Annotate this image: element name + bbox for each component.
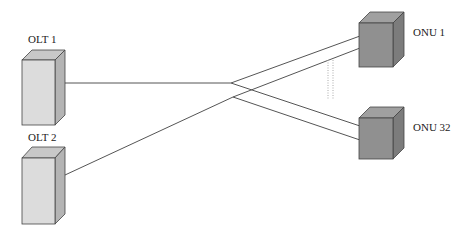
fiber-links <box>65 36 360 175</box>
olt1-label: OLT 1 <box>28 33 56 45</box>
ellipsis-dots <box>328 60 333 100</box>
diagram-canvas <box>0 0 471 239</box>
olt1-to-onu32 <box>231 83 360 126</box>
olt1-to-onu1 <box>231 36 360 83</box>
olt2-trunk <box>65 97 233 175</box>
onu1-label: ONU 1 <box>413 26 445 38</box>
olt2-label: OLT 2 <box>28 131 56 143</box>
olt1-icon <box>22 50 65 125</box>
onu32-icon <box>359 107 404 159</box>
olt2-to-onu32 <box>233 97 360 140</box>
olt2-to-onu1 <box>233 48 360 97</box>
olt2-icon <box>22 147 65 224</box>
onu32-label: ONU 32 <box>413 121 451 133</box>
onu1-icon <box>359 12 404 67</box>
